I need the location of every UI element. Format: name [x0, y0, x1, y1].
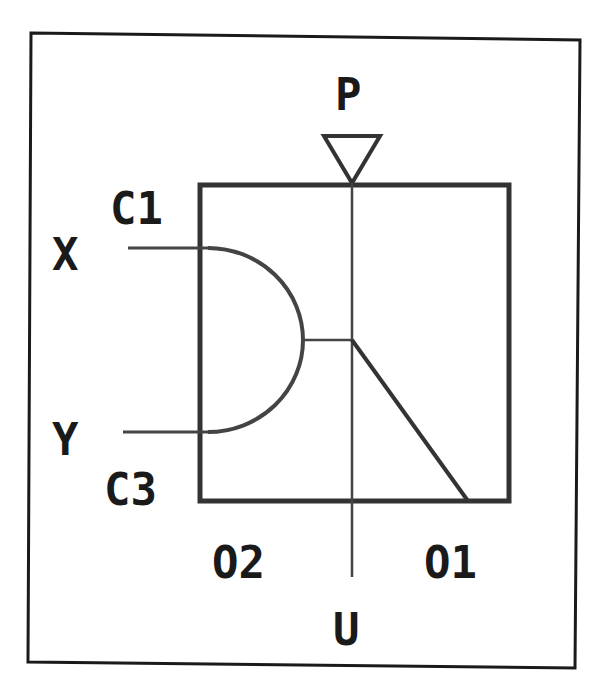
label-u: U: [333, 604, 360, 655]
label-y: Y: [52, 414, 79, 465]
label-p: P: [335, 69, 362, 120]
label-o2: O2: [212, 537, 265, 588]
input-triangle: [324, 136, 380, 183]
label-x: X: [52, 229, 79, 280]
label-c3: C3: [104, 464, 157, 515]
diagonal-line: [352, 340, 468, 501]
label-o1: O1: [424, 537, 477, 588]
and-gate-arc: [208, 248, 303, 432]
label-c1: C1: [110, 183, 163, 234]
diagram-canvas: P C1 X Y C3 O2 O1 U: [0, 0, 607, 697]
